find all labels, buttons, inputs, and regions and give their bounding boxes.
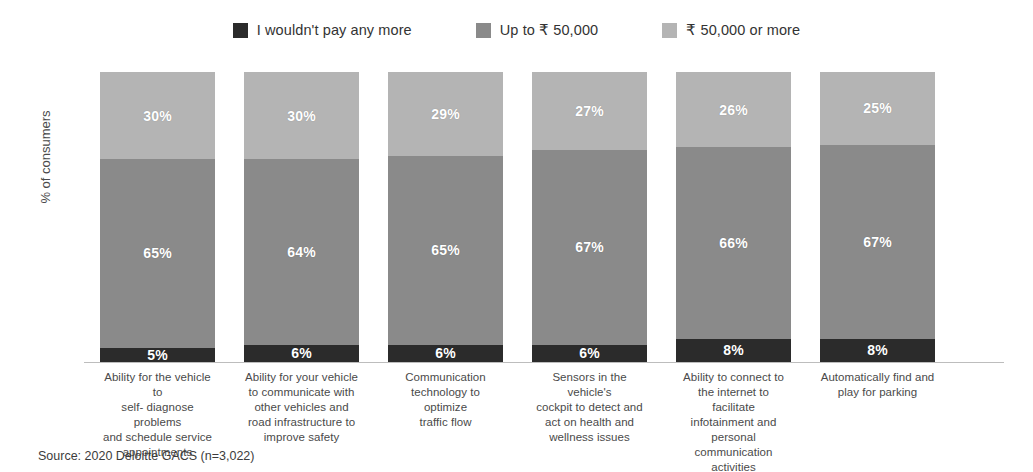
bar-segment-top-2[interactable]: 29% xyxy=(388,72,503,156)
bar-segment-middle-4[interactable]: 66% xyxy=(676,147,791,338)
legend-item-2[interactable]: ₹ 50,000 or more xyxy=(662,22,800,38)
bar-value-label-top-1: 30% xyxy=(287,108,316,124)
legend-label-2: ₹ 50,000 or more xyxy=(686,22,800,38)
bar-value-label-bottom-4: 8% xyxy=(723,342,744,358)
bar-column-3[interactable]: 27% 67% 6% xyxy=(532,72,647,362)
bar-value-label-bottom-0: 5% xyxy=(147,348,168,363)
bar-segment-bottom-2[interactable]: 6% xyxy=(388,345,503,362)
bar-segment-top-1[interactable]: 30% xyxy=(244,72,359,159)
legend-label-1: Up to ₹ 50,000 xyxy=(500,22,598,38)
bar-value-label-top-5: 25% xyxy=(863,100,892,116)
bar-segment-middle-0[interactable]: 65% xyxy=(100,159,215,348)
bar-segment-bottom-5[interactable]: 8% xyxy=(820,339,935,362)
bar-column-0[interactable]: 30% 65% 5% xyxy=(100,72,215,362)
bar-column-1[interactable]: 30% 64% 6% xyxy=(244,72,359,362)
bar-value-label-middle-0: 65% xyxy=(143,245,172,261)
bar-segment-top-3[interactable]: 27% xyxy=(532,72,647,150)
y-axis-title: % of consumers xyxy=(38,72,53,242)
chart-legend: I wouldn't pay any more Up to ₹ 50,000 ₹… xyxy=(0,22,1033,38)
bar-value-label-top-2: 29% xyxy=(431,106,460,122)
category-label-2: Communicationtechnology to optimizetraff… xyxy=(388,370,503,472)
legend-item-1[interactable]: Up to ₹ 50,000 xyxy=(476,22,598,38)
bar-value-label-middle-4: 66% xyxy=(719,235,748,251)
bar-segment-bottom-3[interactable]: 6% xyxy=(532,345,647,362)
bar-segment-top-5[interactable]: 25% xyxy=(820,72,935,145)
legend-swatch-icon-1 xyxy=(476,23,491,38)
bar-segment-middle-3[interactable]: 67% xyxy=(532,150,647,344)
x-axis-line xyxy=(84,362,1004,363)
bar-value-label-bottom-5: 8% xyxy=(867,342,888,358)
bar-value-label-middle-5: 67% xyxy=(863,234,892,250)
bar-segment-bottom-0[interactable]: 5% xyxy=(100,348,215,363)
bar-segment-top-0[interactable]: 30% xyxy=(100,72,215,159)
bar-value-label-top-3: 27% xyxy=(575,103,604,119)
bar-segment-bottom-4[interactable]: 8% xyxy=(676,339,791,362)
legend-item-0[interactable]: I wouldn't pay any more xyxy=(233,22,412,38)
bar-segment-middle-5[interactable]: 67% xyxy=(820,145,935,339)
bar-segment-bottom-1[interactable]: 6% xyxy=(244,345,359,362)
bar-value-label-middle-3: 67% xyxy=(575,239,604,255)
stacked-bar-group: 30% 65% 5% 30% 64% 6% 29% xyxy=(100,72,988,362)
category-label-5: Automatically find andplay for parking xyxy=(820,370,935,472)
source-note: Source: 2020 Deloitte GACS (n=3,022) xyxy=(38,449,254,463)
bar-segment-top-4[interactable]: 26% xyxy=(676,72,791,147)
bar-value-label-bottom-3: 6% xyxy=(579,345,600,361)
plot-area: % of consumers 30% 65% 5% 30% 64% 6% xyxy=(0,62,1033,364)
category-label-4: Ability to connect tothe internet to fac… xyxy=(676,370,791,472)
bar-segment-middle-1[interactable]: 64% xyxy=(244,159,359,345)
category-label-1: Ability for your vehicleto communicate w… xyxy=(244,370,359,472)
bar-value-label-top-4: 26% xyxy=(719,102,748,118)
bar-value-label-top-0: 30% xyxy=(143,108,172,124)
bar-value-label-middle-1: 64% xyxy=(287,244,316,260)
bar-column-5[interactable]: 25% 67% 8% xyxy=(820,72,935,362)
bar-value-label-middle-2: 65% xyxy=(431,242,460,258)
bar-value-label-bottom-2: 6% xyxy=(435,345,456,361)
bar-column-4[interactable]: 26% 66% 8% xyxy=(676,72,791,362)
legend-swatch-icon-0 xyxy=(233,23,248,38)
category-label-3: Sensors in the vehicle'scockpit to detec… xyxy=(532,370,647,472)
bar-column-2[interactable]: 29% 65% 6% xyxy=(388,72,503,362)
bar-segment-middle-2[interactable]: 65% xyxy=(388,156,503,345)
legend-label-0: I wouldn't pay any more xyxy=(257,22,412,38)
bar-value-label-bottom-1: 6% xyxy=(291,345,312,361)
legend-swatch-icon-2 xyxy=(662,23,677,38)
